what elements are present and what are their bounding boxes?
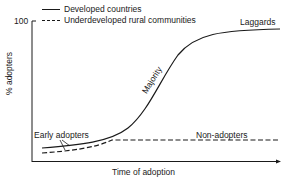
annotation-laggards: Laggards xyxy=(240,18,275,27)
legend-item-underdeveloped: Underdeveloped rural communities xyxy=(42,15,196,25)
y-axis-label: % adopters xyxy=(4,52,14,95)
legend-label-underdeveloped: Underdeveloped rural communities xyxy=(64,15,196,25)
y-tick-label-100: 100 xyxy=(14,17,28,26)
x-axis-arrow-icon xyxy=(276,160,281,164)
early-adopters-pointer-2 xyxy=(62,140,70,146)
x-axis-label: Time of adoption xyxy=(112,168,175,177)
underdeveloped-curve xyxy=(42,140,280,153)
annotation-non-adopters: Non-adopters xyxy=(196,131,248,140)
annotation-early-adopters: Early adopters xyxy=(34,131,89,140)
legend-label-developed: Developed countries xyxy=(64,4,142,14)
legend-solid-line-icon xyxy=(42,9,60,10)
legend-item-developed: Developed countries xyxy=(42,4,142,14)
legend-dashed-line-icon xyxy=(42,20,60,21)
